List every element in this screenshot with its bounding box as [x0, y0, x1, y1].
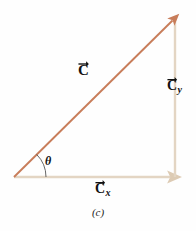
y-component-subscript: y: [177, 84, 181, 95]
y-component-letter: C: [167, 78, 177, 93]
angle-label: θ: [45, 155, 51, 167]
x-component-label: C x: [95, 182, 110, 198]
figure-caption: (c): [0, 206, 196, 218]
vector-cx-glyph: C: [95, 182, 105, 196]
y-component-label: C y: [167, 79, 182, 95]
resultant-vector: [14, 21, 173, 178]
resultant-vector-letter: C: [78, 62, 89, 78]
resultant-vector-label: C: [78, 63, 89, 78]
x-component-letter: C: [95, 181, 105, 196]
vector-cy-glyph: C: [167, 79, 177, 93]
vector-c-glyph: C: [78, 63, 89, 78]
x-component-subscript: x: [105, 187, 110, 198]
vector-diagram-figure: C C y C x θ (c): [0, 0, 196, 231]
